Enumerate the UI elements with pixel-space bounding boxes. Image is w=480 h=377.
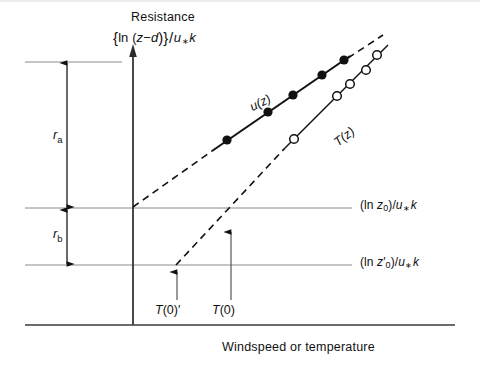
y-axis-formula-u: u [174, 30, 181, 45]
t-zero-label: T(0) [212, 303, 235, 317]
t-zero-var: T [212, 303, 220, 317]
reference-lines [25, 62, 352, 265]
ln-z0-open: (ln [360, 198, 377, 212]
t-point [362, 66, 371, 75]
t-zero-prime-label: T(0)′ [155, 303, 180, 317]
rb-label: rb [53, 227, 63, 245]
y-axis-formula-k: k [189, 30, 196, 45]
figure-container: Resistance {ln (z−d)}/u∗k ra rb (ln z0)/… [0, 0, 480, 377]
ln-z0-u: u [396, 198, 403, 212]
ln-z0-prime-open: (ln [360, 255, 377, 269]
ln-z0-prime-k: k [413, 255, 419, 269]
x-axis-title: Windspeed or temperature [222, 340, 375, 354]
temperature-profile [176, 45, 388, 265]
y-axis-formula-minus: − [143, 30, 151, 45]
t-point [290, 135, 299, 144]
diagram-canvas [0, 0, 480, 377]
ln-z0-prime-u: u [398, 255, 405, 269]
y-axis-formula-star: ∗ [181, 37, 189, 46]
ln-z0-star: ∗ [403, 204, 411, 213]
ln-z0-prime-star: ∗ [405, 261, 413, 270]
y-axis-formula-close: )} [158, 29, 168, 46]
u-dashed-extrapolation [133, 151, 212, 207]
t-zero-paren: (0) [220, 303, 235, 317]
axes [25, 44, 455, 325]
ln-z0-label: (ln z0)/u∗k [360, 199, 417, 214]
u-point [317, 70, 326, 79]
t-point [373, 51, 382, 60]
u-point [222, 135, 231, 144]
rb-subscript: b [57, 233, 62, 244]
ra-label: ra [53, 128, 63, 146]
ln-z0-k: k [411, 198, 417, 212]
y-axis-formula: {ln (z−d)}/u∗k [113, 29, 196, 47]
t-zero-prime-paren: (0) [163, 303, 178, 317]
ln-z0-prime-label: (ln z′0)/u∗k [360, 256, 419, 271]
intercept-indicator-arrows [177, 232, 231, 300]
t-zero-prime-var: T [155, 303, 163, 317]
ra-subscript: a [57, 134, 62, 145]
windspeed-profile [133, 35, 383, 207]
t-point [333, 92, 342, 101]
u-point [339, 55, 348, 64]
y-axis-title: Resistance [131, 10, 195, 24]
y-axis-formula-ln: ln ( [118, 30, 136, 45]
u-point [288, 90, 297, 99]
t-point [346, 80, 355, 89]
t-zero-prime-mark: ′ [178, 303, 180, 317]
